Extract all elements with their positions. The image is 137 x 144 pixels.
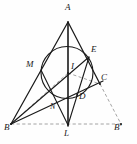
label-m: M <box>26 60 34 69</box>
segment-cb-prime-line <box>100 84 121 124</box>
label-l: L <box>64 129 69 138</box>
point-marker-c <box>99 83 101 85</box>
point-marker-d <box>76 94 78 96</box>
label-d: D <box>79 92 86 101</box>
label-n: N <box>50 103 55 111</box>
label-b: B <box>4 123 10 132</box>
solid-lines-group <box>11 22 103 126</box>
line-be-line <box>11 57 89 124</box>
point-marker-b <box>10 123 12 125</box>
label-c: C <box>101 73 107 82</box>
label-e: E <box>91 45 97 54</box>
label-b-prime: B' <box>114 123 121 132</box>
label-a: A <box>65 3 71 12</box>
point-marker-i <box>67 72 69 74</box>
point-marker-l <box>67 123 69 125</box>
label-i: I <box>71 62 74 71</box>
geometry-figure: A B C D E I L M N B' <box>0 0 137 144</box>
